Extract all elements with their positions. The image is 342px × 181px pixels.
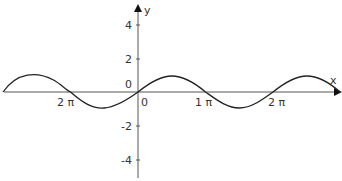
sine-curve xyxy=(3,75,340,109)
x-origin-label: 0 xyxy=(141,96,148,109)
x-tick-neg-2pi: 2 π xyxy=(57,96,74,109)
sine-chart: y x 4 2 0 0 -2 -4 2 π 1 π 2 π xyxy=(0,0,342,181)
x-axis-arrow-icon xyxy=(334,88,342,96)
y-axis-arrow-icon xyxy=(134,4,142,12)
y-axis-label: y xyxy=(144,4,151,17)
y-origin-label: 0 xyxy=(125,78,132,91)
y-tick-neg2: -2 xyxy=(121,120,132,133)
y-tick-neg4: -4 xyxy=(121,154,132,167)
x-tick-2pi: 2 π xyxy=(268,96,285,109)
y-tick-2: 2 xyxy=(125,53,132,66)
y-tick-4: 4 xyxy=(125,19,132,32)
x-tick-1pi: 1 π xyxy=(195,96,212,109)
x-axis-label: x xyxy=(330,74,337,87)
